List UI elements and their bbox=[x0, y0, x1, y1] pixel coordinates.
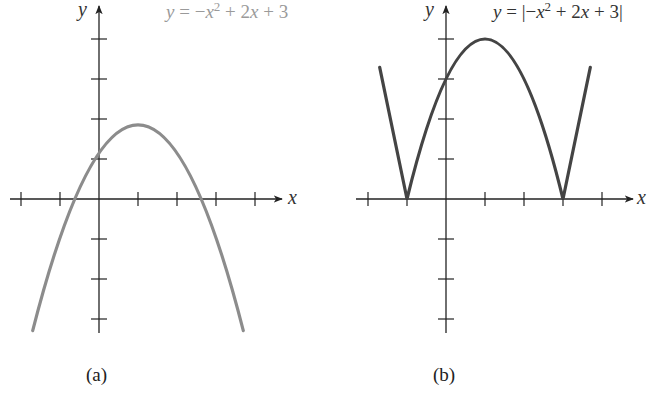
panel-b-abs-parabola-curve bbox=[380, 39, 591, 199]
eq-a-term: + 2 bbox=[220, 1, 250, 22]
panel-a-x-axis-label: x bbox=[288, 186, 297, 209]
eq-b-x2: x bbox=[581, 1, 589, 22]
panel-a-y-axis-label: y bbox=[78, 0, 87, 21]
eq-b-term: + 2 bbox=[551, 1, 581, 22]
eq-b-const: + 3| bbox=[589, 1, 623, 22]
panel-b-y-axis-label: y bbox=[425, 0, 434, 21]
eq-a-equals: = − bbox=[174, 1, 205, 22]
panel-a-caption: (a) bbox=[86, 364, 107, 386]
figure: y = −x2 + 2x + 3 y = |−x2 + 2x + 3| y x … bbox=[0, 0, 654, 395]
panel-b-graph bbox=[356, 6, 633, 333]
panel-a-equation: y = −x2 + 2x + 3 bbox=[166, 1, 288, 23]
panel-b-equation: y = |−x2 + 2x + 3| bbox=[493, 1, 623, 23]
panel-b-caption: (b) bbox=[433, 364, 455, 386]
eq-a-x: x bbox=[205, 1, 213, 22]
panel-a-graph bbox=[10, 6, 282, 333]
graphs-canvas bbox=[0, 0, 654, 395]
eq-b-equals: = |− bbox=[501, 1, 536, 22]
eq-b-x: x bbox=[536, 1, 544, 22]
panel-a-parabola-curve bbox=[33, 125, 244, 331]
eq-a-const: + 3 bbox=[258, 1, 288, 22]
panel-b-x-axis-label: x bbox=[637, 186, 646, 209]
